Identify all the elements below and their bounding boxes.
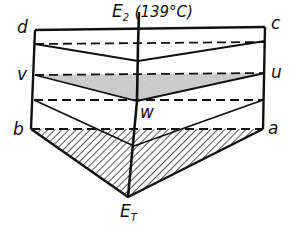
diagram-canvas: E2 (139°C) d c v u w b a ET [0, 0, 291, 235]
label-e2: E2 (139°C) [112, 3, 193, 20]
label-b: b [13, 121, 24, 138]
label-u: u [271, 64, 282, 81]
label-et: ET [120, 203, 137, 220]
label-w: w [140, 104, 154, 121]
label-c: c [271, 15, 280, 32]
dashed-level-1 [35, 42, 265, 44]
label-d: d [17, 19, 28, 36]
left-edge-d-b [31, 30, 35, 129]
label-a: a [268, 120, 278, 137]
top-edge-d-c [35, 27, 265, 30]
label-v: v [17, 66, 27, 83]
